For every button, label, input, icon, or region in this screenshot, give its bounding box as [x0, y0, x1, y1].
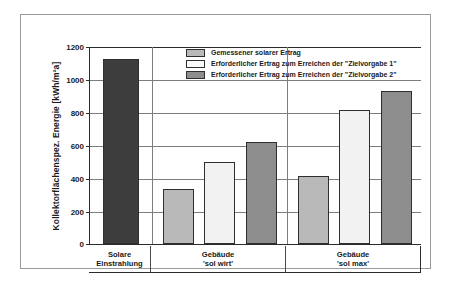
category-label-line1: Solare — [108, 250, 131, 260]
y-tick-label-200: 200 — [71, 208, 84, 217]
y-tick-800 — [86, 113, 90, 114]
legend-swatch-target1 — [186, 60, 205, 68]
bar-sol-max-zielvorgabe-2 — [381, 91, 412, 244]
bar-solare-einstrahlung — [103, 59, 139, 244]
y-tick-0 — [86, 244, 90, 245]
group-separator-1 — [152, 47, 153, 244]
y-axis-title: Kollektorflächenspez. Energie [kWh/m²a] — [49, 47, 63, 245]
legend-item-target1: Erforderlicher Ertrag zum Erreichen der … — [186, 59, 397, 68]
chart-frame: Kollektorflächenspez. Energie [kWh/m²a] … — [20, 14, 431, 269]
category-label-2: Gebäude'sol wirt' — [151, 246, 286, 273]
category-label-line1: Gebäude — [202, 250, 235, 260]
legend-swatch-measured — [186, 49, 205, 57]
y-tick-label-600: 600 — [71, 142, 84, 151]
gridline-1000 — [90, 80, 421, 81]
category-label-line1: Gebäude — [337, 250, 370, 260]
y-tick-400 — [86, 179, 90, 180]
legend-item-measured: Gemessener solarer Ertrag — [186, 48, 397, 57]
y-tick-1200 — [86, 47, 90, 48]
category-label-line2: 'sol wirt' — [203, 259, 233, 269]
category-label-line2: Einstrahlung — [96, 259, 142, 269]
category-label-1: SolareEinstrahlung — [89, 246, 151, 273]
y-tick-1000 — [86, 80, 90, 81]
y-tick-label-1000: 1000 — [66, 76, 84, 85]
legend-label-target2: Erforderlicher Ertrag zum Erreichen der … — [211, 71, 397, 79]
category-label-3: Gebäude'sol max' — [286, 246, 421, 273]
legend-label-target1: Erforderlicher Ertrag zum Erreichen der … — [211, 60, 397, 68]
category-axis: SolareEinstrahlungGebäude'sol wirt'Gebäu… — [89, 246, 421, 273]
bar-sol-wirt-zielvorgabe-1 — [204, 162, 235, 245]
category-label-line2: 'sol max' — [337, 259, 369, 269]
y-axis-title-text: Kollektorflächenspez. Energie [kWh/m²a] — [51, 62, 61, 231]
y-tick-label-1200: 1200 — [66, 43, 84, 52]
legend-item-target2: Erforderlicher Ertrag zum Erreichen der … — [186, 70, 397, 79]
chart-legend: Gemessener solarer ErtragErforderlicher … — [186, 48, 397, 79]
y-tick-label-400: 400 — [71, 175, 84, 184]
y-tick-200 — [86, 212, 90, 213]
y-tick-600 — [86, 146, 90, 147]
bar-sol-wirt-gemessen — [163, 189, 194, 244]
bar-sol-wirt-zielvorgabe-2 — [246, 142, 277, 244]
bar-sol-max-zielvorgabe-1 — [339, 110, 370, 244]
chart-page: Kollektorflächenspez. Energie [kWh/m²a] … — [0, 0, 452, 282]
y-tick-label-800: 800 — [71, 109, 84, 118]
legend-label-measured: Gemessener solarer Ertrag — [211, 49, 301, 57]
bar-sol-max-gemessen — [298, 176, 329, 244]
gridline-800 — [90, 113, 421, 114]
y-tick-label-0: 0 — [80, 240, 84, 249]
legend-swatch-target2 — [186, 71, 205, 79]
